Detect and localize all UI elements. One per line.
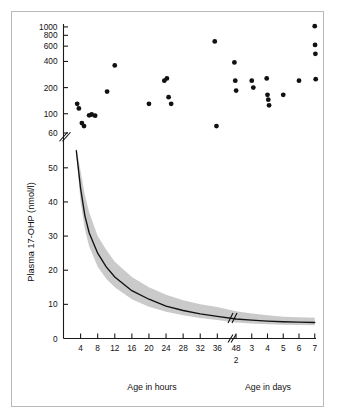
svg-text:200: 200 xyxy=(44,83,58,93)
scatter-point xyxy=(266,97,271,102)
scatter-point xyxy=(297,78,302,83)
svg-text:30: 30 xyxy=(48,231,58,241)
svg-text:40: 40 xyxy=(48,197,58,207)
svg-text:8: 8 xyxy=(95,343,100,353)
scatter-point xyxy=(267,103,272,108)
svg-text:50: 50 xyxy=(48,163,58,173)
scatter-point xyxy=(264,76,269,81)
svg-text:16: 16 xyxy=(127,343,137,353)
svg-text:400: 400 xyxy=(44,56,58,66)
scatter-point xyxy=(313,77,318,82)
x-axis-label-hours: Age in hours xyxy=(127,382,177,392)
scatter-point xyxy=(232,60,237,65)
scatter-point xyxy=(165,76,170,81)
chart-figure: 1000800600400200100605040302010048121620… xyxy=(0,0,337,419)
svg-text:2: 2 xyxy=(234,355,239,365)
svg-text:36: 36 xyxy=(213,343,223,353)
x-axis-label-days: Age in days xyxy=(245,382,292,392)
svg-text:60: 60 xyxy=(48,128,58,138)
scatter-point xyxy=(147,101,152,106)
y-axis-label: Plasma 17-OHP (nmol/l) xyxy=(26,182,36,281)
scatter-point xyxy=(251,85,256,90)
svg-text:100: 100 xyxy=(44,109,58,119)
svg-text:48: 48 xyxy=(231,343,241,353)
scatter-point xyxy=(105,89,110,94)
scatter-point xyxy=(249,78,254,83)
svg-text:10: 10 xyxy=(48,299,58,309)
scatter-point xyxy=(313,43,318,48)
svg-text:4: 4 xyxy=(78,343,83,353)
svg-text:600: 600 xyxy=(44,41,58,51)
scatter-point xyxy=(265,92,270,97)
scatter-point xyxy=(76,106,81,111)
scatter-point xyxy=(82,124,87,129)
svg-text:5: 5 xyxy=(281,343,286,353)
svg-text:0: 0 xyxy=(53,334,58,344)
svg-text:6: 6 xyxy=(297,343,302,353)
scatter-point xyxy=(166,95,171,100)
scatter-point xyxy=(169,101,174,106)
svg-text:12: 12 xyxy=(110,343,120,353)
svg-text:3: 3 xyxy=(249,343,254,353)
scatter-point xyxy=(75,101,80,106)
scatter-point xyxy=(93,113,98,118)
reference-range-band xyxy=(76,147,314,325)
svg-text:24: 24 xyxy=(161,343,171,353)
reference-curve xyxy=(76,151,314,323)
scatter-point xyxy=(214,124,219,129)
scatter-point xyxy=(312,24,317,29)
scatter-point xyxy=(313,51,318,56)
svg-text:7: 7 xyxy=(312,343,317,353)
svg-text:20: 20 xyxy=(48,265,58,275)
svg-text:28: 28 xyxy=(179,343,189,353)
scatter-point xyxy=(233,78,238,83)
svg-text:800: 800 xyxy=(44,30,58,40)
scatter-point xyxy=(234,88,239,93)
svg-text:20: 20 xyxy=(144,343,154,353)
svg-text:4: 4 xyxy=(265,343,270,353)
svg-text:32: 32 xyxy=(196,343,206,353)
scatter-point xyxy=(212,39,217,44)
scatter-point xyxy=(281,92,286,97)
scatter-point xyxy=(112,63,117,68)
